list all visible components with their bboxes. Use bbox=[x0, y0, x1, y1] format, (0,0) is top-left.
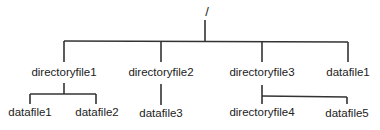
node-directoryfile4: directoryfile4 bbox=[229, 106, 294, 118]
root-node: / bbox=[205, 4, 209, 19]
node-directoryfile2: directoryfile2 bbox=[128, 66, 193, 78]
node-datafile1: datafile1 bbox=[8, 106, 51, 118]
level1-bus bbox=[64, 41, 348, 42]
node-datafile3: datafile3 bbox=[139, 107, 182, 119]
node-directoryfile1: directoryfile1 bbox=[31, 66, 96, 78]
node-directoryfile3: directoryfile3 bbox=[229, 66, 294, 78]
bus-directoryfile3 bbox=[262, 96, 347, 97]
tree-connectors bbox=[0, 0, 380, 130]
node-datafile2: datafile2 bbox=[75, 106, 118, 118]
node-datafile1-top: datafile1 bbox=[326, 66, 369, 78]
node-datafile5: datafile5 bbox=[325, 107, 368, 119]
